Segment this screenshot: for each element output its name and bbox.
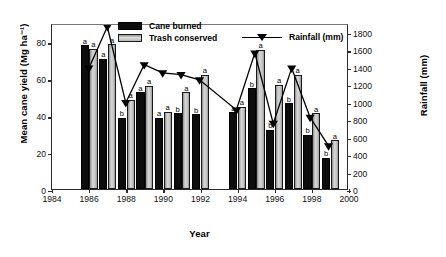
significance-letter-burned-1997: b	[287, 96, 291, 104]
significance-letter-trash-1998: a	[314, 106, 318, 114]
significance-letter-trash-1987: a	[110, 37, 114, 45]
significance-letter-burned-1996: b	[268, 122, 272, 130]
y-right-tick-label: 1800	[353, 29, 372, 39]
legend-item-cane-burned: Cane burned	[118, 21, 202, 31]
y-right-tick	[347, 69, 351, 70]
cane-yield-rainfall-chart: Mean cane yield (Mg ha⁻¹) Rainfall (mm) …	[0, 0, 446, 257]
y-right-tick-label: 200	[353, 169, 367, 179]
y-right-tick	[347, 51, 351, 52]
y-right-tick	[347, 174, 351, 175]
significance-letter-burned-1994: a	[231, 105, 235, 113]
y-right-tick-label: 800	[353, 116, 367, 126]
significance-letter-trash-1996: a	[277, 77, 281, 85]
y-left-tick-label: 20	[36, 149, 46, 159]
cane-burned-swatch-icon	[118, 22, 142, 30]
x-tick	[163, 189, 164, 193]
x-tick-label: 2000	[339, 194, 358, 204]
x-tick	[89, 189, 90, 193]
y-right-tick-label: 400	[353, 151, 367, 161]
significance-letter-burned-1992: b	[194, 107, 198, 115]
x-tick-label: 1988	[117, 194, 136, 204]
significance-letter-burned-1990: a	[157, 110, 161, 118]
trash-conserved-swatch-icon	[118, 34, 142, 42]
x-tick-label: 1998	[302, 194, 321, 204]
significance-letter-burned-1991: b	[175, 106, 179, 114]
significance-letter-trash-1991: a	[184, 85, 188, 93]
y-right-tick-label: 1000	[353, 99, 372, 109]
x-tick	[312, 189, 313, 193]
significance-letter-trash-1992: a	[203, 67, 207, 75]
legend-label-trash-conserved: Trash conserved	[149, 33, 217, 43]
x-tick-label: 1984	[42, 194, 61, 204]
significance-letter-trash-1999: a	[333, 133, 337, 141]
significance-letter-trash-1989: a	[147, 78, 151, 86]
x-axis-title: Year	[51, 228, 348, 239]
x-tick-label: 1990	[154, 194, 173, 204]
legend-label-cane-burned: Cane burned	[149, 21, 202, 31]
y-left-tick-label: 60	[36, 75, 46, 85]
significance-letter-trash-1994: a	[240, 99, 244, 107]
y-axis-left-title: Mean cane yield (Mg ha⁻¹)	[18, 9, 29, 159]
x-tick-label: 1996	[265, 194, 284, 204]
legend-item-trash-conserved: Trash conserved	[118, 33, 217, 43]
y-axis-right-title: Rainfall (mm)	[418, 11, 429, 161]
legend-item-rainfall: Rainfall (mm)	[242, 32, 343, 42]
y-right-tick	[347, 121, 351, 122]
y-right-tick	[347, 104, 351, 105]
x-tick	[52, 189, 53, 193]
y-left-tick-label: 80	[36, 38, 46, 48]
x-tick	[201, 189, 202, 193]
y-right-tick-label: 1200	[353, 81, 372, 91]
x-tick	[126, 189, 127, 193]
significance-letter-burned-1987: a	[101, 51, 105, 59]
y-right-tick-label: 600	[353, 134, 367, 144]
significance-letter-burned-1998: b	[305, 127, 309, 135]
x-tick-label: 1986	[80, 194, 99, 204]
significance-letter-trash-1988: a	[128, 92, 132, 100]
x-tick-label: 1994	[228, 194, 247, 204]
significance-letter-burned-1995: b	[250, 81, 254, 89]
significance-letter-burned-1986: a	[83, 38, 87, 46]
x-tick	[349, 189, 350, 193]
significance-letter-trash-1986: a	[91, 41, 95, 49]
significance-letter-trash-1990: a	[166, 104, 170, 112]
x-tick	[275, 189, 276, 193]
y-right-tick	[347, 86, 351, 87]
x-tick	[238, 189, 239, 193]
y-left-tick-label: 40	[36, 112, 46, 122]
significance-letter-burned-1988: b	[120, 110, 124, 118]
significance-letter-burned-1999: b	[324, 150, 328, 158]
y-right-tick-label: 1400	[353, 64, 372, 74]
y-right-tick-label: 1600	[353, 46, 372, 56]
y-right-tick	[347, 156, 351, 157]
significance-letter-trash-1997: a	[296, 67, 300, 75]
chart-legend: Cane burned Trash conserved Rainfall (mm…	[118, 21, 348, 51]
x-tick-label: 1992	[191, 194, 210, 204]
significance-letter-burned-1989: a	[138, 85, 142, 93]
legend-label-rainfall: Rainfall (mm)	[289, 32, 343, 42]
y-right-tick	[347, 139, 351, 140]
rainfall-line-marker-icon	[242, 32, 282, 42]
